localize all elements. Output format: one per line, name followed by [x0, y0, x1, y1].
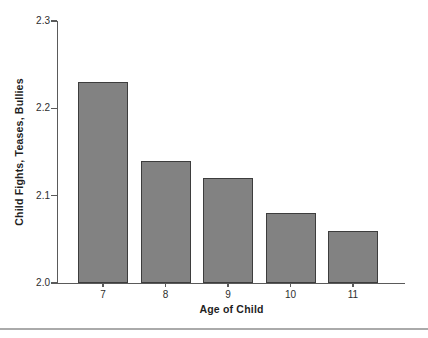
x-tick-label: 10 — [276, 289, 306, 301]
x-tick-mark — [290, 283, 292, 287]
x-tick-mark — [352, 283, 354, 287]
x-tick-mark — [227, 283, 229, 287]
bar-age-11 — [328, 231, 378, 283]
y-tick-mark — [51, 108, 57, 110]
x-tick-label: 11 — [338, 289, 368, 301]
y-tick-label: 2.2 — [24, 102, 50, 114]
bar-age-10 — [266, 213, 316, 283]
bar-age-7 — [78, 82, 128, 283]
x-tick-label: 7 — [88, 289, 118, 301]
x-tick-mark — [102, 283, 104, 287]
bar-chart-figure: Child Fights, Teases, Bullies Age of Chi… — [0, 0, 428, 338]
x-tick-mark — [165, 283, 167, 287]
y-tick-label: 2.3 — [24, 15, 50, 27]
x-tick-label: 9 — [213, 289, 243, 301]
y-axis-line — [57, 21, 59, 283]
bar-age-9 — [203, 178, 253, 283]
y-tick-mark — [51, 20, 57, 22]
bottom-divider-rule — [0, 328, 428, 330]
y-axis-title: Child Fights, Teases, Bullies — [13, 78, 25, 225]
bar-age-8 — [141, 161, 191, 283]
x-axis-title: Age of Child — [199, 303, 263, 315]
y-tick-label: 2.1 — [24, 190, 50, 202]
y-tick-mark — [51, 282, 57, 284]
y-tick-label: 2.0 — [24, 277, 50, 289]
y-tick-mark — [51, 195, 57, 197]
x-tick-label: 8 — [151, 289, 181, 301]
